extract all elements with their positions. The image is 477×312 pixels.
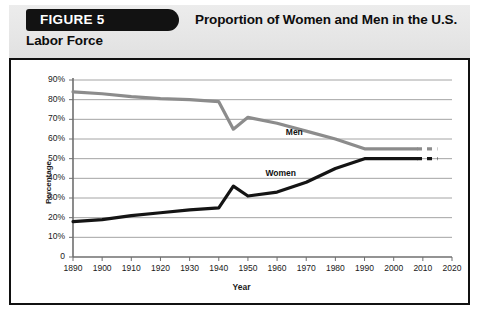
y-tick-label: 80% <box>25 94 65 104</box>
figure-container: FIGURE 5 Proportion of Women and Men in … <box>0 0 477 312</box>
chart-frame: 90%80%70%60%50%40%30%20%10%0 18901900191… <box>9 58 470 305</box>
x-axis-title: Year <box>11 282 472 292</box>
y-axis-title: Percentage <box>44 140 53 226</box>
y-tick-label: 70% <box>25 113 65 123</box>
figure-header: FIGURE 5 Proportion of Women and Men in … <box>9 5 470 58</box>
y-tick-label: 10% <box>25 231 65 241</box>
plot-area: 90%80%70%60%50%40%30%20%10%0 18901900191… <box>11 60 468 303</box>
x-tick-label: 2020 <box>432 263 472 273</box>
y-tick-label: 90% <box>25 74 65 84</box>
series-label-women: Women <box>265 168 296 178</box>
figure-title-line1: Proportion of Women and Men in the U.S. <box>195 11 470 28</box>
figure-number-badge: FIGURE 5 <box>26 9 179 31</box>
figure-title-line2: Labor Force <box>26 33 103 48</box>
figure-number-label: FIGURE 5 <box>40 12 105 27</box>
y-tick-label: 0 <box>25 251 65 261</box>
series-label-men: Men <box>286 127 303 137</box>
